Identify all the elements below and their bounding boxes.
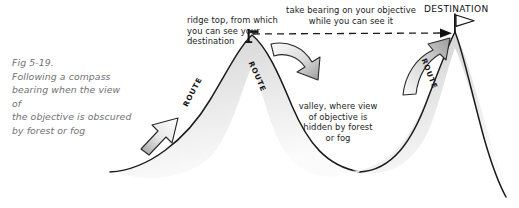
annotation-take-bearing: take bearing on your objective while you…: [281, 5, 421, 26]
bearing-line-2: while you can see it: [281, 16, 421, 27]
valley-line-2: of objective is: [286, 112, 390, 123]
caption-line-1: Following a compass: [12, 70, 132, 84]
ridge-line-3: destination: [187, 36, 287, 47]
figure-caption: Fig 5-19. Following a compass bearing wh…: [12, 56, 132, 138]
valley-line-1: valley, where view: [286, 101, 390, 112]
flag-icon: [454, 14, 474, 34]
ridge-line-1: ridge top, from which: [187, 15, 287, 26]
valley-line-3: hidden by forest: [286, 122, 390, 133]
ridge-line-2: you can see your: [187, 26, 287, 37]
figure-number: Fig 5-19.: [12, 56, 132, 70]
annotation-ridge-top: ridge top, from which you can see your d…: [187, 15, 287, 47]
figure-illustration: Fig 5-19. Following a compass bearing wh…: [0, 0, 519, 208]
bearing-line-1: take bearing on your objective: [281, 5, 421, 16]
caption-line-4: by forest or fog: [12, 124, 132, 138]
caption-line-3: the objective is obscured: [12, 110, 132, 124]
destination-label: DESTINATION: [424, 4, 489, 14]
valley-line-4: or fog: [286, 133, 390, 144]
annotation-valley: valley, where view of objective is hidde…: [286, 101, 390, 143]
caption-line-2: bearing when the view of: [12, 83, 132, 110]
